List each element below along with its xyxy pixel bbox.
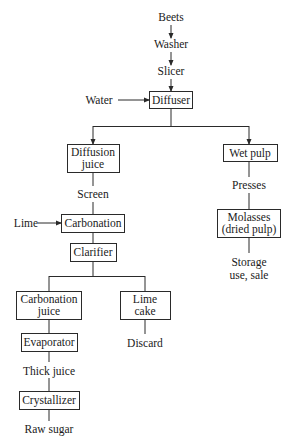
node-presses: Presses bbox=[232, 179, 266, 191]
svg-text:Evaporator: Evaporator bbox=[23, 336, 74, 349]
svg-text:Lime: Lime bbox=[133, 293, 157, 305]
node-carbonation-juice: Carbonation juice bbox=[17, 292, 82, 320]
node-thick-juice: Thick juice bbox=[23, 365, 75, 378]
node-evaporator: Evaporator bbox=[22, 334, 78, 352]
node-beets: Beets bbox=[158, 11, 184, 23]
node-diffusion-juice: Diffusion juice bbox=[68, 145, 120, 173]
svg-text:Diffuser: Diffuser bbox=[152, 94, 190, 106]
node-discard: Discard bbox=[127, 337, 163, 349]
node-screen: Screen bbox=[77, 188, 109, 200]
svg-text:Crystallizer: Crystallizer bbox=[22, 394, 76, 407]
node-storage-use: use, sale bbox=[230, 269, 269, 282]
node-clarifier: Clarifier bbox=[71, 244, 117, 262]
svg-text:Wet pulp: Wet pulp bbox=[229, 147, 271, 160]
svg-text:juice: juice bbox=[37, 305, 60, 318]
node-lime-cake: Lime cake bbox=[121, 292, 171, 320]
node-diffuser: Diffuser bbox=[150, 92, 193, 109]
svg-text:Clarifier: Clarifier bbox=[74, 246, 113, 258]
svg-text:cake: cake bbox=[134, 305, 155, 317]
svg-text:Carbonation: Carbonation bbox=[65, 217, 122, 229]
node-slicer: Slicer bbox=[158, 65, 185, 77]
node-crystallizer: Crystallizer bbox=[20, 392, 80, 410]
node-molasses: Molasses (dried pulp) bbox=[218, 210, 281, 238]
node-water: Water bbox=[85, 94, 112, 106]
svg-text:Carbonation: Carbonation bbox=[21, 293, 78, 305]
node-lime: Lime bbox=[14, 217, 38, 229]
svg-text:juice: juice bbox=[81, 158, 104, 171]
node-washer: Washer bbox=[154, 38, 188, 50]
svg-text:Molasses: Molasses bbox=[228, 211, 271, 223]
node-wet-pulp: Wet pulp bbox=[224, 145, 278, 162]
svg-text:(dried pulp): (dried pulp) bbox=[222, 223, 277, 236]
svg-text:Diffusion: Diffusion bbox=[71, 146, 115, 158]
sugar-beet-process-flowchart: Beets Washer Slicer Water Diffuser Diffu… bbox=[0, 0, 292, 444]
node-raw-sugar: Raw sugar bbox=[25, 423, 74, 436]
node-storage: Storage bbox=[231, 256, 266, 269]
node-carbonation: Carbonation bbox=[62, 215, 125, 233]
